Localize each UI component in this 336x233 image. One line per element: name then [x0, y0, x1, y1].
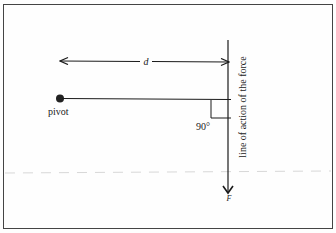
- diagram-canvas: d pivot 90° line of action of the force …: [0, 0, 336, 233]
- torque-diagram: d pivot 90° line of action of the force …: [0, 0, 336, 233]
- line-of-action-label: line of action of the force: [237, 56, 248, 158]
- force-label: F: [226, 194, 232, 203]
- lever-arm: [62, 99, 231, 100]
- pivot-label: pivot: [48, 106, 69, 117]
- distance-arrow-right: [152, 62, 229, 63]
- distance-label: d: [144, 56, 150, 67]
- angle-label: 90°: [196, 121, 210, 132]
- distance-arrow-left: [60, 61, 140, 62]
- faint-dashed-line: [5, 171, 331, 173]
